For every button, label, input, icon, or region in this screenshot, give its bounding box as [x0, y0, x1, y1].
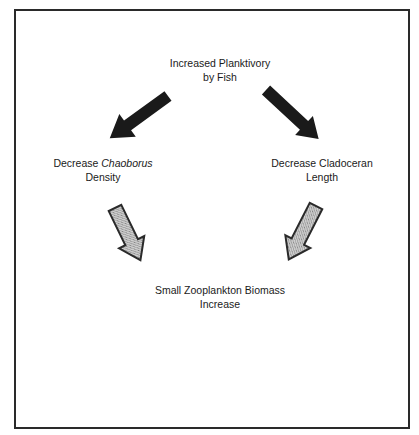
- arrow-right-to-bottom-icon: [276, 200, 328, 266]
- arrow-top-to-right-icon: [257, 80, 327, 148]
- arrow-top-to-left-icon: [102, 85, 177, 150]
- arrows-layer: [0, 0, 419, 435]
- arrow-left-to-bottom-icon: [102, 202, 153, 266]
